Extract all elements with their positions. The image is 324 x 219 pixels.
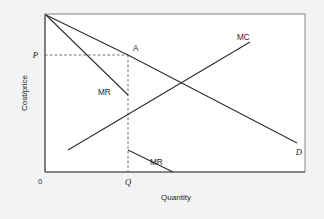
figure-container: A MC D MR MR P Q 0 Cost/price Quantity [0, 0, 324, 219]
demand-curve-label: D [295, 147, 303, 157]
kink-point-label: A [133, 44, 139, 53]
kinked-demand-curve-chart: A MC D MR MR P Q 0 Cost/price Quantity [0, 0, 324, 219]
marginal-revenue-lower-label: MR [150, 158, 163, 167]
marginal-revenue-upper-label: MR [98, 88, 111, 97]
plot-frame [45, 14, 305, 172]
price-tick-label: P [32, 50, 39, 60]
y-axis-label: Cost/price [20, 74, 29, 111]
x-axis-label: Quantity [161, 193, 191, 202]
caption-strip [0, 207, 324, 219]
quantity-tick-label: Q [125, 177, 132, 187]
origin-label: 0 [38, 177, 42, 186]
marginal-cost-label: MC [237, 33, 250, 42]
